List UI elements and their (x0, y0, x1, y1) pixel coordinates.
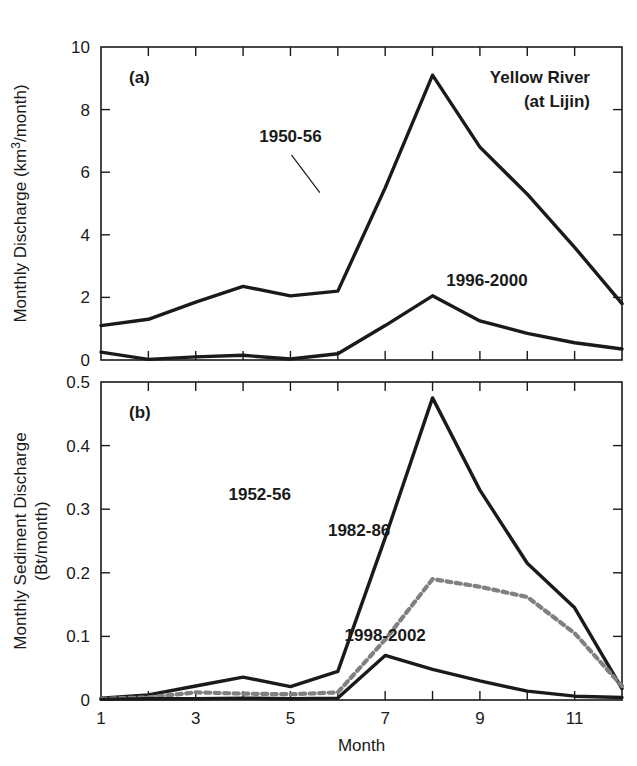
series-line-1950-56 (101, 75, 622, 325)
figure-container: 0246810(a)1950-561996-2000Monthly Discha… (0, 0, 637, 766)
corner-title-line2: (at Lijin) (524, 92, 590, 111)
series-label-1998-2002: 1998-2002 (345, 626, 426, 645)
plot-frame (101, 382, 622, 700)
panel-tag: (b) (129, 403, 151, 422)
y-tick-label: 0.3 (66, 500, 90, 519)
y-tick-label: 2 (81, 288, 90, 307)
series-line-1996-2000 (101, 296, 622, 360)
y-tick-label: 0 (81, 691, 90, 710)
y-axis-title: Monthly Discharge (km3/month) (9, 84, 30, 322)
panel-b: 00.10.20.30.40.51357911Month(b)1952-5619… (11, 373, 622, 755)
y-tick-label: 0 (81, 351, 90, 370)
series-label-1996-2000: 1996-2000 (446, 271, 527, 290)
y-tick-label: 8 (81, 101, 90, 120)
series-line-1952-56 (101, 398, 622, 698)
corner-title: Yellow River(at Lijin) (490, 68, 591, 111)
x-tick-label: 11 (566, 709, 584, 728)
x-axis-title: Month (338, 736, 385, 755)
x-tick-label: 7 (380, 709, 389, 728)
y-tick-label: 4 (81, 226, 90, 245)
series-label-1950-56: 1950-56 (259, 127, 321, 146)
series-label-1952-56: 1952-56 (228, 485, 290, 504)
x-tick-label: 5 (286, 709, 295, 728)
y-tick-label: 0.2 (66, 564, 90, 583)
panel-tag: (a) (129, 68, 150, 87)
y-tick-label: 10 (71, 38, 90, 57)
chart-svg: 0246810(a)1950-561996-2000Monthly Discha… (0, 0, 637, 766)
y-axis-title-line1: Monthly Sediment Discharge (11, 432, 30, 649)
y-tick-label: 6 (81, 163, 90, 182)
y-tick-label: 0.5 (66, 373, 90, 392)
y-axis-title-line2: (Bt/month) (32, 501, 51, 580)
y-tick-label: 0.1 (66, 627, 90, 646)
series-label-1982-86: 1982-86 (328, 521, 390, 540)
leader-line-1950-56 (291, 155, 319, 193)
x-tick-label: 3 (191, 709, 200, 728)
x-tick-label: 1 (96, 709, 105, 728)
x-tick-label: 9 (475, 709, 484, 728)
y-tick-label: 0.4 (66, 437, 90, 456)
panel-a: 0246810(a)1950-561996-2000Monthly Discha… (9, 38, 622, 370)
corner-title-line1: Yellow River (490, 68, 591, 87)
